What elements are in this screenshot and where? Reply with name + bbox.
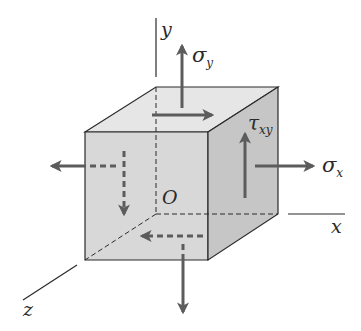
cube-front-face	[85, 132, 208, 260]
origin-label: O	[162, 186, 178, 208]
stress-element-diagram: y x z O σy σx τxy	[0, 0, 361, 331]
z-axis	[23, 265, 77, 300]
sigma-y-label: σy	[192, 43, 213, 70]
y-axis-label: y	[160, 18, 172, 40]
z-axis-label: z	[22, 298, 34, 320]
sigma-x-label: σx	[322, 153, 343, 180]
x-axis-label: x	[331, 215, 342, 237]
